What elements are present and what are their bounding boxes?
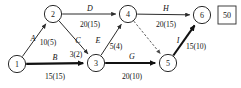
edge-value-I: 15(10) xyxy=(186,42,207,51)
edge-label-D: D xyxy=(86,4,93,13)
edge-label-G: G xyxy=(129,52,135,61)
node-label-6: 6 xyxy=(200,11,204,20)
node-3: 3 xyxy=(87,54,104,71)
edge-label-A: A xyxy=(30,34,36,43)
node-label-3: 3 xyxy=(94,59,98,68)
node-6: 6 xyxy=(193,6,210,23)
edge-E xyxy=(101,24,121,55)
edge-label-E: E xyxy=(95,36,101,45)
node-1: 1 xyxy=(8,55,25,72)
edge-label-I: I xyxy=(176,36,180,45)
node-label-4: 4 xyxy=(126,10,130,19)
total-value-label: 50 xyxy=(223,11,231,20)
node-label-1: 1 xyxy=(15,60,19,69)
network-diagram: 123456 A10(5)B15(15)C3(2)D20(15)E5(4)G20… xyxy=(0,0,241,88)
edge-value-A: 10(5) xyxy=(40,38,57,47)
edge-value-G: 20(10) xyxy=(122,72,143,81)
edge-value-B: 15(15) xyxy=(45,72,66,81)
edge-label-H: H xyxy=(162,4,170,13)
edge-value-E: 5(4) xyxy=(110,42,123,51)
node-label-5: 5 xyxy=(166,59,170,68)
node-2: 2 xyxy=(44,5,61,22)
edge-value-H: 20(15) xyxy=(156,20,177,29)
edge-value-C: 3(2) xyxy=(70,50,83,59)
total-value-group: 50 xyxy=(218,6,236,24)
edge-H xyxy=(137,14,190,15)
node-label-2: 2 xyxy=(51,10,55,19)
node-4: 4 xyxy=(119,5,136,22)
edge-value-D: 20(15) xyxy=(80,20,101,29)
node-5: 5 xyxy=(159,54,176,71)
edge-B xyxy=(26,63,83,64)
edge-label-C: C xyxy=(75,36,81,45)
edge-label-B: B xyxy=(53,53,58,62)
network-canvas: 123456 A10(5)B15(15)C3(2)D20(15)E5(4)G20… xyxy=(0,0,241,88)
